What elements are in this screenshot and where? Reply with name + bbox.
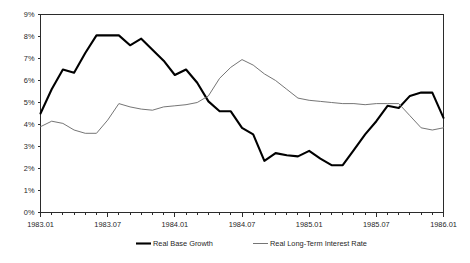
series-line-1	[41, 35, 444, 165]
y-tick-label: 7%	[24, 54, 35, 63]
x-tick-label: 1985.01	[296, 220, 323, 229]
y-tick-label: 4%	[24, 120, 35, 129]
y-tick-label: 8%	[24, 32, 35, 41]
x-tick-label: 1983.07	[94, 220, 121, 229]
y-tick-label: 2%	[24, 164, 35, 173]
y-tick-label: 0%	[24, 208, 35, 217]
y-tick-label: 6%	[24, 76, 35, 85]
x-tick-label: 1986.01	[430, 220, 457, 229]
x-tick-label: 1984.07	[229, 220, 256, 229]
x-tick-label: 1984.01	[161, 220, 188, 229]
line-chart: 0%1%2%3%4%5%6%7%8%9% 1983.011983.071984.…	[0, 0, 470, 263]
series-lines	[41, 35, 444, 165]
chart-container: 0%1%2%3%4%5%6%7%8%9% 1983.011983.071984.…	[0, 0, 470, 263]
y-axis: 0%1%2%3%4%5%6%7%8%9%	[24, 10, 41, 217]
chart-legend: Real Base GrowthReal Long-Term Interest …	[136, 239, 367, 248]
x-tick-label: 1983.01	[27, 220, 54, 229]
series-line-2	[41, 60, 444, 134]
x-tick-label: 1985.07	[363, 220, 390, 229]
x-axis: 1983.011983.071984.011984.071985.011985.…	[27, 213, 457, 229]
y-tick-label: 3%	[24, 142, 35, 151]
legend-label-2: Real Long-Term Interest Rate	[270, 239, 367, 248]
y-tick-label: 9%	[24, 10, 35, 19]
legend-label-1: Real Base Growth	[153, 239, 213, 248]
y-tick-label: 1%	[24, 186, 35, 195]
y-tick-label: 5%	[24, 98, 35, 107]
